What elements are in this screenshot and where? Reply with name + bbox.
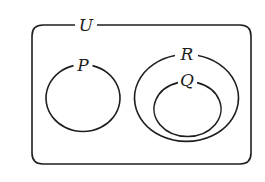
set-r-label: R [180,44,194,64]
set-q-ellipse [154,83,221,137]
set-p-circle [46,66,120,132]
set-p: P [46,55,120,131]
universal-set: U [32,15,251,164]
set-q-label: Q [180,70,194,90]
set-q: Q [154,70,221,136]
set-r: R [135,44,239,141]
universal-set-border [32,25,251,164]
set-r-ellipse [135,56,239,142]
universal-set-label: U [79,15,94,35]
set-p-label: P [76,55,89,75]
venn-diagram: U P R Q [0,0,265,182]
